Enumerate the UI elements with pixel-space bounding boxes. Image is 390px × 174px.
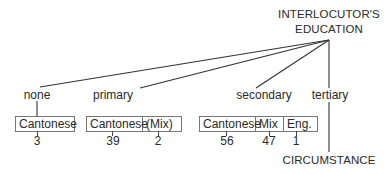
edge-root-none — [40, 40, 329, 87]
secondary-language-box: Cantonese Mix Eng. — [199, 116, 318, 132]
cell-mix: Mix — [256, 117, 284, 131]
root-label-line1: INTERLOCUTOR'S — [278, 7, 380, 21]
count-primary-mix: 2 — [155, 134, 162, 148]
root-label-line2: EDUCATION — [295, 22, 363, 36]
tertiary-child-label: CIRCUMSTANCE — [283, 153, 376, 167]
count-secondary-english: 1 — [293, 134, 300, 148]
branch-primary-label: primary — [93, 88, 133, 102]
count-primary-cantonese: 39 — [106, 134, 119, 148]
cell-mix: (Mix) — [143, 117, 181, 131]
cell-cantonese: Cantonese — [16, 117, 74, 131]
branch-none-label: none — [24, 88, 51, 102]
count-secondary-cantonese: 56 — [220, 134, 233, 148]
edge-root-secondary — [256, 40, 329, 88]
primary-language-box: Cantonese (Mix) — [86, 116, 182, 132]
cell-cantonese: Cantonese — [200, 117, 256, 131]
count-secondary-mix: 47 — [262, 134, 275, 148]
cell-english: Eng. — [284, 117, 317, 131]
edge-root-primary — [140, 40, 329, 88]
none-language-box: Cantonese — [15, 116, 75, 132]
branch-tertiary-label: tertiary — [310, 88, 351, 102]
branch-secondary-label: secondary — [236, 88, 291, 102]
cell-cantonese: Cantonese — [87, 117, 143, 131]
count-none-cantonese: 3 — [34, 134, 41, 148]
